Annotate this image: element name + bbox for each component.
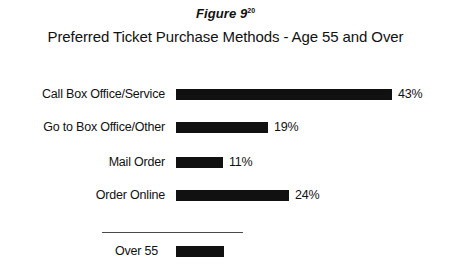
chart-row: Mail Order 11% bbox=[0, 150, 451, 174]
bar bbox=[176, 190, 289, 201]
category-label: Order Online bbox=[0, 183, 165, 207]
category-label: Mail Order bbox=[0, 150, 165, 174]
legend-color-swatch bbox=[176, 246, 224, 257]
chart-row: Go to Box Office/Other 19% bbox=[0, 115, 451, 139]
figure-footnote-marker: 20 bbox=[247, 7, 255, 14]
legend-separator-rule bbox=[102, 232, 243, 233]
legend-entry-label: Over 55 bbox=[0, 240, 158, 262]
figure-container: Figure 920 Preferred Ticket Purchase Met… bbox=[0, 0, 451, 275]
category-label: Go to Box Office/Other bbox=[0, 115, 165, 139]
chart-legend: Over 55 bbox=[0, 240, 451, 262]
bar-value-label: 43% bbox=[398, 82, 422, 106]
bar bbox=[176, 89, 392, 100]
chart-row: Order Online 24% bbox=[0, 183, 451, 207]
figure-caption-text: Figure 9 bbox=[196, 6, 247, 21]
bar-value-label: 24% bbox=[295, 183, 319, 207]
chart-row: Call Box Office/Service 43% bbox=[0, 82, 451, 106]
chart-title: Preferred Ticket Purchase Methods - Age … bbox=[0, 28, 451, 45]
bar bbox=[176, 157, 223, 168]
chart-plot-area: Call Box Office/Service 43% Go to Box Of… bbox=[0, 82, 451, 208]
category-label: Call Box Office/Service bbox=[0, 82, 165, 106]
bar-value-label: 11% bbox=[229, 150, 253, 174]
figure-caption: Figure 920 bbox=[0, 6, 451, 21]
bar bbox=[176, 122, 268, 133]
bar-value-label: 19% bbox=[274, 115, 298, 139]
